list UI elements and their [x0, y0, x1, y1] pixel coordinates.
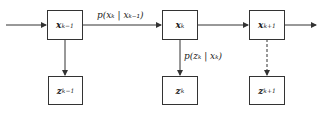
observation-label: p(zₖ | xₖ) — [184, 51, 222, 61]
hmm-diagram: xk−1 xk xk+1 zk−1 zk zk+1 p(xₖ | xₖ₋₁) p… — [0, 0, 321, 113]
node-z-next: zk+1 — [249, 76, 285, 105]
node-x-curr: xk — [162, 10, 198, 40]
transition-label: p(xₖ | xₖ₋₁) — [97, 10, 144, 20]
node-x-next: xk+1 — [249, 10, 285, 40]
node-x-prev: xk−1 — [47, 10, 83, 40]
node-z-curr: zk — [162, 76, 198, 105]
node-z-prev: zk−1 — [48, 76, 83, 105]
